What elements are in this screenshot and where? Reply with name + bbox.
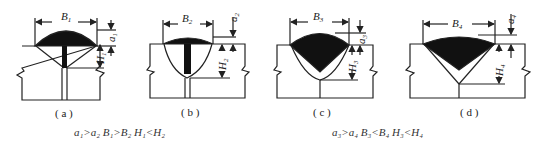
weld-crown <box>163 38 213 44</box>
base-plate-outline <box>17 46 104 100</box>
label-B1: B1 <box>61 10 71 24</box>
label-H4: H4 <box>493 64 507 77</box>
weld-penetration <box>184 44 191 74</box>
caption-d: ( d ) <box>460 106 479 119</box>
label-a3: a3 <box>355 35 369 45</box>
caption-b: ( b ) <box>181 106 200 119</box>
weld-metal <box>290 34 349 73</box>
weld-penetration <box>62 46 67 68</box>
label-H1: H1 <box>94 53 108 65</box>
weld-crown <box>35 31 97 46</box>
panel-d <box>406 14 530 98</box>
label-H2: H2 <box>216 58 230 71</box>
weld-cross-section-diagram: B1 a1 H1 ( a ) B2 a2 H2 ( b ) <box>0 0 541 147</box>
label-H3: H3 <box>346 60 360 73</box>
label-B3: B3 <box>313 10 324 24</box>
panel-b <box>147 18 249 98</box>
label-a2: a2 <box>227 13 241 23</box>
relation-ab: a₁>a₂ B₁>B₂ H₁<H₂ <box>74 126 165 138</box>
label-a4: a4 <box>504 15 518 25</box>
caption-a: ( a ) <box>55 107 73 120</box>
label-B2: B2 <box>182 12 193 26</box>
weld-metal <box>423 37 495 70</box>
label-a1: a1 <box>105 33 119 42</box>
panel-c <box>274 18 377 98</box>
caption-c: ( c ) <box>313 106 331 119</box>
label-B4: B4 <box>452 17 463 31</box>
relation-cd: a₃>a₄ B₃<B₄ H₃<H₄ <box>332 126 423 138</box>
